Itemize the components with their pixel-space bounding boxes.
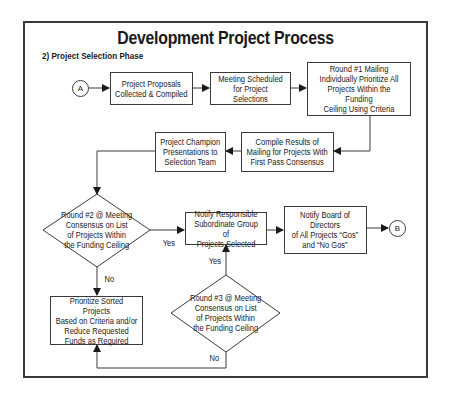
edge-label-round2-no: No [105, 274, 115, 284]
edge-label-round3-yes: Yes [209, 256, 221, 266]
decision-round2-label: Round #2 @ Meeting Consensus on List of … [61, 210, 132, 250]
process-compile-results: Compile Results of Mailing for Projects … [241, 132, 334, 172]
process-meeting-text: Meeting Scheduled for Project Selections [215, 74, 286, 104]
process-proposals-text: Project Proposals Collected & Compiled [115, 79, 187, 99]
edge-label-round2-yes: Yes [163, 238, 175, 248]
process-prioritize-text: Prioritize Sorted Projects Based on Crit… [56, 296, 138, 346]
process-round1-text: Round #1 Mailing Individually Prioritize… [313, 64, 405, 114]
process-prioritize: Prioritize Sorted Projects Based on Crit… [50, 296, 143, 345]
decision-round2-text: Round #2 @ Meeting Consensus on List of … [50, 208, 144, 252]
process-round1-mailing: Round #1 Mailing Individually Prioritize… [307, 62, 411, 116]
flowchart-canvas: Development Project Process 2) Project S… [0, 0, 451, 399]
connector-a-label: A [78, 84, 83, 93]
process-notify-board: Notify Board of Directors of All Project… [284, 206, 367, 254]
process-champion-presentations: Project Champion Presentations to Select… [155, 132, 226, 172]
process-proposals: Project Proposals Collected & Compiled [110, 72, 193, 105]
decision-round3-label: Round #3 @ Meeting Consensus on List of … [190, 293, 261, 333]
process-meeting: Meeting Scheduled for Project Selections [210, 72, 291, 105]
process-notify-board-text: Notify Board of Directors of All Project… [292, 210, 359, 250]
edge-label-round3-no: No [210, 353, 220, 363]
process-notify-subordinate-text: Notify Responsible Subordinate Group of … [190, 209, 262, 249]
process-notify-subordinate: Notify Responsible Subordinate Group of … [185, 212, 267, 245]
process-compile-text: Compile Results of Mailing for Projects … [247, 137, 328, 167]
process-champion-text: Project Champion Presentations to Select… [161, 137, 221, 167]
connector-a: A [72, 80, 89, 97]
connector-b: B [389, 220, 406, 237]
connector-b-label: B [395, 224, 400, 233]
decision-round3-text: Round #3 @ Meeting Consensus on List of … [178, 291, 274, 335]
